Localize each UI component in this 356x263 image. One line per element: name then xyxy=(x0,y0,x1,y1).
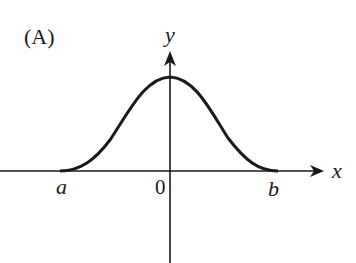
panel-label: (A) xyxy=(24,24,55,49)
x-axis-label: x xyxy=(331,158,342,183)
origin-label: 0 xyxy=(155,175,166,199)
graph-figure: (A) y x 0 a b xyxy=(0,0,356,263)
bell-curve xyxy=(60,77,278,171)
y-axis-label: y xyxy=(163,22,175,47)
point-a-label: a xyxy=(56,174,67,199)
point-b-label: b xyxy=(268,176,279,201)
